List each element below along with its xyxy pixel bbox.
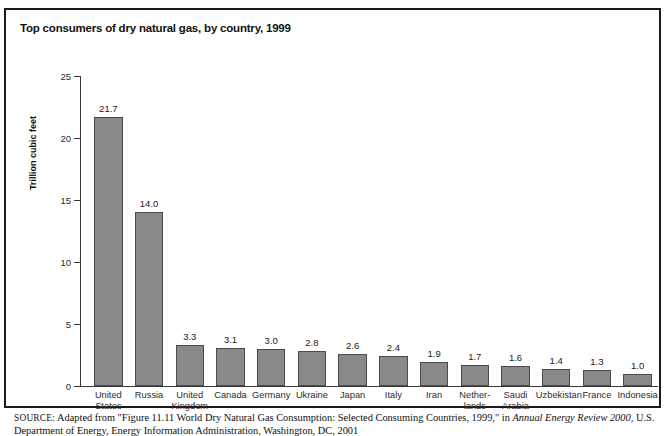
bar-value-label: 1.0 [631,360,644,371]
bar-item[interactable]: 3.1 [216,334,245,386]
y-axis-tick-label: 15 [60,195,71,206]
x-axis-category-label: Iran [414,390,455,401]
source-label: SOURCE: [14,413,55,423]
x-axis-line [80,386,658,387]
y-axis-tick-label: 20 [60,133,71,144]
bar-rect[interactable] [501,366,530,386]
x-axis-category-label: Canada [210,390,251,401]
y-axis-line [80,76,81,386]
bar-item[interactable]: 1.0 [623,360,652,386]
x-axis-category-label: Saudi Arabia [495,390,536,411]
bar-rect[interactable] [176,345,205,386]
bar-rect[interactable] [135,212,164,386]
bar-item[interactable]: 1.4 [542,355,571,386]
source-note: SOURCE: Adapted from "Figure 11.11 World… [14,412,662,436]
bar-value-label: 2.4 [387,342,400,353]
figure-frame: Top consumers of dry natural gas, by cou… [4,8,661,408]
y-axis-title: Trillion cubic feet [28,116,38,190]
bar-rect[interactable] [542,369,571,386]
x-axis-category-label: United Kingdom [169,390,210,411]
bar-rect[interactable] [216,348,245,386]
bar-value-label: 14.0 [140,198,159,209]
bar-item[interactable]: 2.6 [338,340,367,386]
bar-rect[interactable] [623,374,652,386]
bar-value-label: 1.4 [550,355,563,366]
x-axis-category-label: Russia [129,390,170,401]
x-axis-category-label: Japan [332,390,373,401]
bar-value-label: 3.1 [224,334,237,345]
source-text-part1: Adapted from "Figure 11.11 World Dry Nat… [55,412,512,423]
bar-item[interactable]: 1.9 [420,348,449,386]
bar-item[interactable]: 2.8 [298,337,327,386]
bar-rect[interactable] [338,354,367,386]
x-axis-category-label: Ukraine [292,390,333,401]
bar-rect[interactable] [257,349,286,386]
bar-rect[interactable] [379,356,408,386]
x-axis-category-label: Italy [373,390,414,401]
bar-value-label: 21.7 [99,103,118,114]
bar-value-label: 1.6 [509,352,522,363]
x-axis-category-label: Indonesia [617,390,658,401]
bar-item[interactable]: 21.7 [94,103,123,386]
y-axis-tick-mark [74,386,80,387]
y-axis-tick-mark [74,324,80,325]
bar-rect[interactable] [583,370,612,386]
bar-value-label: 3.0 [265,335,278,346]
bar-value-label: 1.7 [468,351,481,362]
bar-item[interactable]: 1.3 [583,356,612,386]
bar-rect[interactable] [94,117,123,386]
bar-item[interactable]: 1.7 [461,351,490,386]
plot-area: 0510152025 21.714.03.33.13.02.82.62.41.9… [80,76,658,386]
bar-value-label: 2.6 [346,340,359,351]
bar-value-label: 3.3 [183,331,196,342]
bar-value-label: 1.3 [590,356,603,367]
page-title: Top consumers of dry natural gas, by cou… [20,22,291,34]
x-axis-category-label: Nether- lands [454,390,495,411]
x-axis-category-label: Uzbekistan [536,390,577,401]
bar-rect[interactable] [298,351,327,386]
y-axis-tick-mark [74,138,80,139]
bar-item[interactable]: 2.4 [379,342,408,386]
x-axis-category-label: United States [88,390,129,411]
x-axis-category-label: Germany [251,390,292,401]
y-axis-tick-mark [74,262,80,263]
x-axis-category-label: France [577,390,618,401]
y-axis-tick-mark [74,200,80,201]
bar-item[interactable]: 3.3 [176,331,205,386]
y-axis-tick-label: 10 [60,257,71,268]
bar-item[interactable]: 3.0 [257,335,286,386]
bar-item[interactable]: 14.0 [135,198,164,386]
bar-item[interactable]: 1.6 [501,352,530,386]
y-axis-tick-mark [74,76,80,77]
source-publication-title: Annual Energy Review 2000 [512,412,630,423]
bar-value-label: 1.9 [427,348,440,359]
y-axis-tick-label: 5 [66,319,71,330]
bar-value-label: 2.8 [305,337,318,348]
bar-rect[interactable] [461,365,490,386]
y-axis-tick-label: 25 [60,71,71,82]
bar-rect[interactable] [420,362,449,386]
y-axis-tick-label: 0 [66,381,71,392]
